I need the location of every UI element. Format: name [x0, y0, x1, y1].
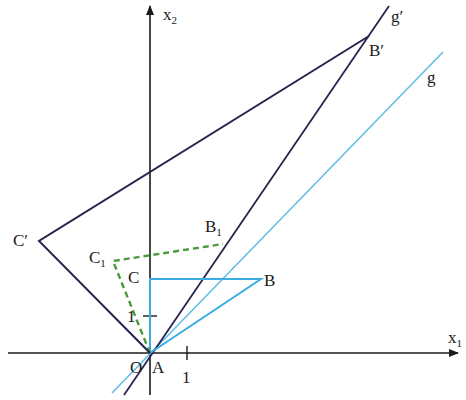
x-tick-label: 1 [182, 368, 191, 387]
line-label-g: g [427, 68, 436, 87]
line-g-prime [124, 6, 389, 395]
line-label-g-prime: g′ [391, 7, 403, 26]
geometry-diagram: x1 x2 1 1 O A C B C1 B1 C′ B′ g′ g [0, 0, 466, 400]
triangle-ab1c1 [113, 244, 223, 353]
triangle-abc [150, 279, 261, 353]
point-label-c1: C1 [89, 248, 106, 269]
point-label-c-prime: C′ [13, 231, 28, 250]
x1-axis-label: x1 [448, 328, 462, 349]
point-label-b-prime: B′ [369, 41, 384, 60]
point-label-c: C [128, 268, 139, 287]
x2-axis-label: x2 [163, 5, 177, 26]
triangle-ab-prime-c-prime [39, 36, 369, 353]
point-label-a: A [152, 358, 165, 377]
point-label-b: B [264, 271, 275, 290]
y-tick-label: 1 [127, 307, 136, 326]
point-label-b1: B1 [205, 217, 222, 238]
line-g [112, 52, 443, 393]
point-label-o: O [130, 358, 142, 377]
